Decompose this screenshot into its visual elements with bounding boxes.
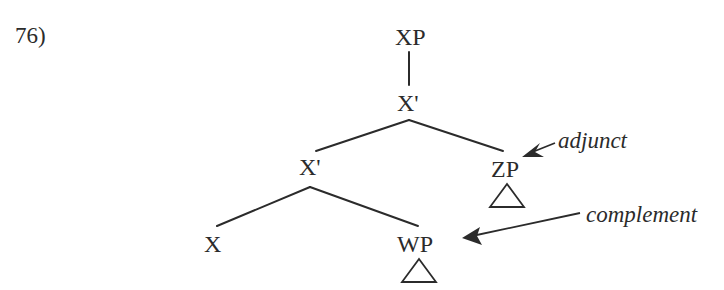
zp-triangle-icon	[490, 184, 524, 207]
complement-arrow-icon	[462, 213, 580, 245]
branch-xbar-wp	[310, 187, 418, 226]
wp-triangle-icon	[402, 259, 436, 282]
branch-xbar-x	[217, 187, 310, 226]
node-wp: WP	[397, 232, 433, 256]
node-zp: ZP	[491, 157, 519, 181]
complement-label: complement	[586, 203, 697, 226]
branch-xbar-zp	[409, 120, 503, 151]
node-xbar-top: X'	[397, 91, 419, 115]
node-xbar-mid: X'	[299, 155, 321, 179]
node-x: X	[204, 232, 221, 256]
branch-xbar-xbar	[316, 120, 409, 151]
adjunct-arrow-icon	[522, 143, 555, 157]
node-xp: XP	[395, 25, 426, 49]
adjunct-label: adjunct	[558, 129, 627, 152]
